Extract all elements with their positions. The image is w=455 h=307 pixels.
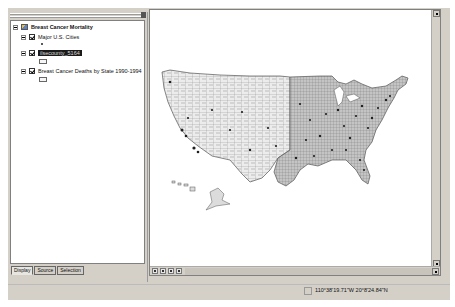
hawaii <box>172 181 195 191</box>
collapse-icon[interactable] <box>21 69 26 74</box>
layer-visibility-checkbox[interactable] <box>29 68 35 74</box>
refresh-icon[interactable] <box>168 268 174 274</box>
polygon-symbol-icon <box>39 59 47 64</box>
tab-selection[interactable]: Selection <box>57 266 84 275</box>
layer-label: Major U.S. Cities <box>38 34 79 40</box>
pause-icon[interactable] <box>176 268 182 274</box>
map-view[interactable] <box>149 9 441 276</box>
data-frame-label: Breast Cancer Mortality <box>31 24 93 30</box>
toc-tree: Breast Cancer Mortality Major U.S. Citie… <box>10 20 145 264</box>
data-view-icon[interactable] <box>152 268 158 274</box>
scroll-up-icon[interactable] <box>433 10 440 17</box>
collapse-icon[interactable] <box>21 51 26 56</box>
tab-source[interactable]: Source <box>34 266 56 275</box>
us-west-region <box>162 70 290 182</box>
layer-visibility-checkbox[interactable] <box>29 50 35 56</box>
layer-visibility-checkbox[interactable] <box>29 34 35 40</box>
toc-tabs: Display Source Selection <box>11 266 85 276</box>
layer-row-cities[interactable]: Major U.S. Cities <box>21 33 79 41</box>
layers-frame-icon <box>21 24 28 30</box>
data-frame-row[interactable]: Breast Cancer Mortality <box>13 23 93 31</box>
layer-label: Breast Cancer Deaths by State 1990-1994 <box>38 68 142 74</box>
horizontal-scrollbar[interactable] <box>185 268 432 275</box>
toc-title-grip[interactable] <box>10 13 146 18</box>
polygon-symbol-icon <box>39 77 47 82</box>
status-bar: 110°38'19.71"W 20°8'24.84"N <box>8 284 450 296</box>
cursor-coordinates: 110°38'19.71"W 20°8'24.84"N <box>315 287 388 293</box>
layout-view-icon[interactable] <box>160 268 166 274</box>
point-symbol-icon <box>41 43 43 45</box>
layer-row-states[interactable]: Breast Cancer Deaths by State 1990-1994 <box>21 67 142 75</box>
close-icon[interactable] <box>141 12 146 18</box>
arcmap-window: Breast Cancer Mortality Major U.S. Citie… <box>8 8 450 300</box>
collapse-icon[interactable] <box>13 25 18 30</box>
scroll-right-icon[interactable] <box>432 268 439 275</box>
table-of-contents: Breast Cancer Mortality Major U.S. Citie… <box>8 12 148 282</box>
tab-display[interactable]: Display <box>11 266 33 275</box>
alaska <box>206 188 230 210</box>
map-canvas[interactable] <box>150 10 432 267</box>
map-view-toolbar <box>150 266 440 275</box>
layer-row-counties[interactable]: ilsecounty_5164 <box>21 49 82 57</box>
layer-label: ilsecounty_5164 <box>38 50 82 56</box>
collapse-icon[interactable] <box>21 35 26 40</box>
status-panel <box>304 287 312 295</box>
vertical-scrollbar[interactable] <box>431 10 440 267</box>
us-county-map <box>150 10 432 267</box>
